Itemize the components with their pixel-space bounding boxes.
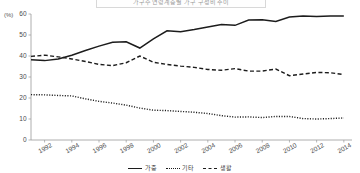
x-tick-label: 1992 — [37, 141, 53, 154]
legend-label-series-0: 가중 — [145, 165, 157, 171]
legend-swatch-dashed-line-icon — [203, 168, 217, 169]
y-tick-label: 40 — [19, 52, 27, 59]
series-line-0 — [31, 16, 344, 61]
legend-swatch-solid-line-icon — [128, 168, 142, 169]
legend-label-series-2: 생활 — [220, 165, 232, 171]
y-tick-label: 50 — [19, 31, 27, 38]
x-tick-label: 2010 — [282, 141, 298, 154]
x-tick-label: 1996 — [91, 141, 107, 154]
legend-item-series-0[interactable]: 가중 — [128, 165, 157, 171]
chart-plot-area: (%) 0102030405060 1992199419961998200020… — [0, 0, 360, 173]
data-series-group — [31, 16, 344, 119]
x-tick-label: 2002 — [173, 141, 189, 154]
y-tick-label: 60 — [19, 10, 27, 17]
chart-legend: 가중 기타 생활 — [0, 165, 360, 171]
legend-item-series-1[interactable]: 기타 — [166, 165, 195, 171]
y-tick-label: 0 — [23, 136, 27, 143]
x-tick-label: 1994 — [64, 141, 80, 154]
series-line-1 — [31, 95, 344, 119]
legend-swatch-dotted-line-icon — [166, 168, 180, 169]
y-tick-label: 10 — [19, 115, 27, 122]
x-tick-label: 2012 — [309, 141, 325, 154]
x-tick-label: 2006 — [227, 141, 243, 154]
y-tick-label: 30 — [19, 73, 27, 80]
x-axis-ticks: 1992199419961998200020022004200620082010… — [37, 140, 353, 154]
legend-label-series-1: 기타 — [182, 165, 194, 171]
x-tick-label: 2004 — [200, 141, 216, 154]
legend-item-series-2[interactable]: 생활 — [203, 165, 232, 171]
series-line-2 — [31, 55, 344, 76]
x-tick-label: 2008 — [255, 141, 271, 154]
x-tick-label: 2000 — [146, 141, 162, 154]
x-tick-label: 2014 — [336, 141, 352, 154]
y-axis-unit-label: (%) — [4, 12, 13, 18]
line-chart: 가구주 연령계층별 가구 구성비 추이 (%) 0102030405060 19… — [0, 0, 360, 173]
x-tick-label: 1998 — [119, 141, 135, 154]
y-tick-label: 20 — [19, 94, 27, 101]
y-axis-ticks: 0102030405060 — [19, 10, 31, 143]
